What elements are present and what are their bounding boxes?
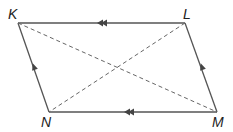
double-arrow-kl-icon xyxy=(97,20,107,27)
double-arrow-mn-icon xyxy=(124,109,134,116)
vertex-label-m: M xyxy=(212,114,224,130)
parallelogram-diagram: K L M N xyxy=(0,0,233,132)
vertex-label-n: N xyxy=(41,114,52,130)
vertex-label-l: L xyxy=(183,6,191,22)
vertex-label-k: K xyxy=(8,6,18,22)
arrow-nk-icon xyxy=(30,62,38,71)
